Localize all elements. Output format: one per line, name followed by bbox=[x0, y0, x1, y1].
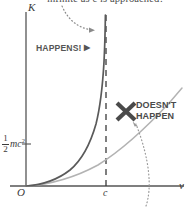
happens-annotation: HAPPENS! ▶ bbox=[36, 44, 90, 53]
y-axis-label: K bbox=[28, 2, 35, 13]
happens-arrow-icon: ▶ bbox=[84, 44, 90, 52]
doesnt-happen-line-2: HAPPEN bbox=[136, 111, 176, 122]
fraction-denominator: 2 bbox=[3, 145, 8, 154]
top-caption-text: infinite as c is approached? bbox=[47, 0, 164, 5]
mc-squared-expression: mc2 bbox=[10, 138, 25, 149]
y-tick-label-half-mc2: 1 2 mc2 bbox=[2, 134, 25, 154]
x-tick-label-c: c bbox=[103, 188, 107, 198]
happens-label-text: HAPPENS! bbox=[36, 44, 82, 53]
doesnt-happen-line-1: DOESN'T bbox=[136, 100, 176, 111]
mc-base: mc bbox=[10, 139, 22, 150]
origin-label: O bbox=[17, 187, 25, 198]
relativistic-kinetic-energy-curve bbox=[26, 15, 105, 186]
top-caption-arrowhead bbox=[89, 28, 95, 33]
doesnt-happen-arrowhead bbox=[133, 122, 138, 127]
fraction-numerator: 1 bbox=[3, 134, 8, 143]
x-axis-label: v bbox=[179, 180, 184, 191]
kinetic-energy-figure: infinite as c is approached? K v O c 1 2… bbox=[0, 0, 192, 212]
doesnt-happen-annotation: DOESN'T HAPPEN bbox=[136, 100, 176, 122]
fraction-one-half: 1 2 bbox=[2, 134, 9, 154]
doesnt-happen-arrow bbox=[136, 124, 149, 206]
mc-exponent: 2 bbox=[22, 137, 25, 144]
top-caption-arrow bbox=[62, 6, 92, 30]
x-mark-icon bbox=[117, 103, 135, 120]
